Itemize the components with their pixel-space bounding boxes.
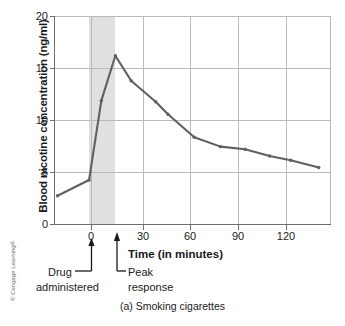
y-tick-label-5: 5 <box>42 167 48 178</box>
plot-area: 20 15 10 5 0 0 30 60 90 120 <box>54 16 331 225</box>
y-tick-label-10: 10 <box>36 115 48 126</box>
data-point <box>219 145 222 148</box>
data-point <box>87 178 90 181</box>
data-point <box>243 148 246 151</box>
peak-response-label-line2: response <box>128 281 173 294</box>
data-point <box>129 79 132 82</box>
drug-administered-label-line1: Drug <box>48 266 72 279</box>
data-point <box>154 100 157 103</box>
x-tick-label-120: 120 <box>277 230 295 242</box>
peak-response-arrowhead <box>114 232 120 241</box>
x-axis-title: Time (in minutes) <box>128 248 223 260</box>
copyright-notice: © Cengage Learning® <box>10 241 16 301</box>
peak-response-label-line1: Peak <box>128 266 153 279</box>
y-tick-label-15: 15 <box>36 63 48 74</box>
data-point <box>166 113 169 116</box>
data-point <box>268 154 271 157</box>
drug-administered-label-line2: administered <box>36 281 99 294</box>
y-tick-label-20: 20 <box>36 11 48 22</box>
x-tick-label-60: 60 <box>184 230 196 242</box>
data-point <box>100 99 103 102</box>
figure-smoking-cigarettes: Blood nicotine concentration (ng/ml) © C… <box>0 0 345 326</box>
data-point <box>56 194 59 197</box>
x-tick-label-90: 90 <box>232 230 244 242</box>
data-point <box>193 136 196 139</box>
figure-caption: (a) Smoking cigarettes <box>0 300 345 312</box>
x-tick-label-0: 0 <box>88 230 94 242</box>
data-point <box>114 54 117 57</box>
nicotine-concentration-line <box>54 16 331 225</box>
data-point <box>289 159 292 162</box>
data-point <box>317 166 320 169</box>
x-tick-label-30: 30 <box>137 230 149 242</box>
y-tick-label-0: 0 <box>42 219 48 230</box>
